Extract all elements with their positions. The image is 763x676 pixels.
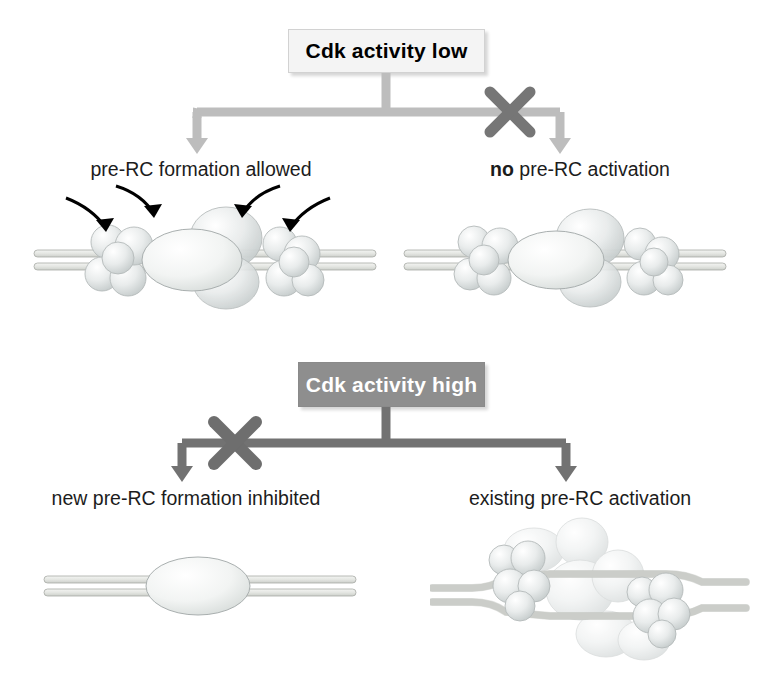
- figure-canvas: Cdk activity low pre-RC formation allowe…: [0, 0, 763, 676]
- label-new-prerc-formation-inhibited: new pre-RC formation inhibited: [26, 487, 346, 510]
- illustration-bottom-left-bare-origin: [40, 548, 360, 618]
- illustration-bottom-right-active-replication: [430, 516, 750, 661]
- label-existing-prerc-activation: existing pre-RC activation: [430, 487, 730, 510]
- label-new-prerc-inhibited-text: new pre-RC formation inhibited: [52, 487, 321, 509]
- bottom-right-arrowhead: [555, 466, 577, 482]
- label-existing-prerc-activation-text: existing pre-RC activation: [469, 487, 691, 509]
- bottom-left-arrowhead: [171, 466, 193, 482]
- orc-oval: [146, 557, 250, 615]
